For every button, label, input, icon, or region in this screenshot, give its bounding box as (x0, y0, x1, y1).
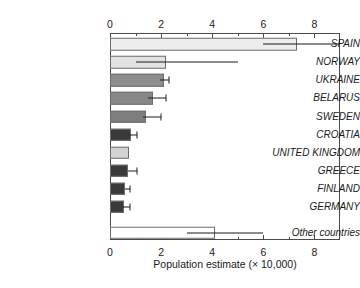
tick-minor (238, 33, 239, 36)
bar-greece (110, 165, 128, 178)
bar-chart: 02468 02468 SPAINNORWAYUKRAINEBELARUSSWE… (0, 0, 360, 288)
tick-label: 8 (312, 19, 318, 30)
bar-united-kingdom (110, 146, 129, 159)
tick-major (314, 33, 315, 38)
x-axis-title: Population estimate (× 10,000) (110, 258, 340, 270)
category-label-germany: GERMANY (254, 202, 360, 212)
category-label-belarus: BELARUS (254, 93, 360, 103)
tick-label: 2 (158, 19, 164, 30)
tick-minor (289, 33, 290, 36)
error-cap (136, 131, 137, 138)
category-label-united-kingdom: UNITED KINGDOM (254, 148, 360, 158)
error-cap (166, 95, 167, 102)
tick-label: 4 (209, 247, 215, 258)
tick-minor (136, 33, 137, 36)
category-label-ukraine: UKRAINE (254, 75, 360, 85)
error-bar-belarus (148, 98, 166, 99)
category-label-sweden: SWEDEN (254, 112, 360, 122)
category-label-greece: GREECE (254, 166, 360, 176)
bar-belarus (110, 92, 153, 105)
tick-label: 6 (260, 247, 266, 258)
bar-finland (110, 183, 125, 196)
tick-label: 8 (312, 247, 318, 258)
error-cap (168, 77, 169, 84)
tick-minor (187, 33, 188, 36)
category-label-other-countries: Other countries (254, 228, 360, 238)
error-bar-sweden (143, 116, 161, 117)
tick-minor (238, 237, 239, 240)
tick-label: 2 (158, 247, 164, 258)
tick-label: 4 (209, 19, 215, 30)
category-label-croatia: CROATIA (254, 130, 360, 140)
category-label-norway: NORWAY (254, 57, 360, 67)
tick-label: 6 (260, 19, 266, 30)
bar-sweden (110, 110, 146, 123)
error-bar-spain (263, 44, 340, 45)
error-bar-other-countries (187, 232, 264, 233)
error-cap (130, 203, 131, 210)
category-label-finland: FINLAND (254, 184, 360, 194)
bar-croatia (110, 128, 131, 141)
bar-ukraine (110, 74, 164, 87)
tick-label: 0 (107, 19, 113, 30)
error-cap (130, 185, 131, 192)
error-cap (136, 167, 137, 174)
error-cap (161, 113, 162, 120)
error-bar-norway (136, 62, 238, 63)
tick-label: 0 (107, 247, 113, 258)
